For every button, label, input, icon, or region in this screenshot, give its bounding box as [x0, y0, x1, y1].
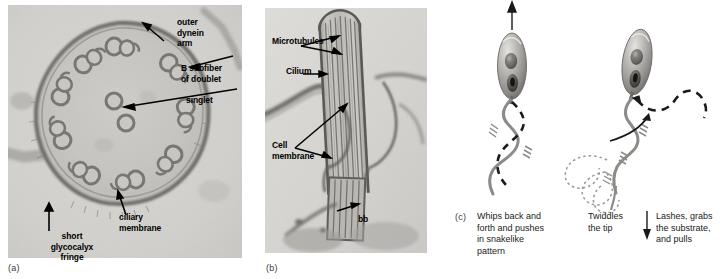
panel-letter-a: (a): [8, 263, 20, 273]
panel-letter-b: (b): [266, 263, 278, 273]
label-cilium: Cilium: [286, 66, 311, 77]
lashing-path-dashed: [637, 91, 706, 118]
label-short-glycocalyx-fringe: short glycocalyx fringe: [51, 231, 93, 263]
label-outer-dynein-arm: outer dynein arm: [177, 17, 204, 49]
label-microtubules: Microtubules: [272, 36, 324, 47]
label-b-subfiber-of-doublet: B subfiber of doublet: [181, 63, 222, 84]
flagellum-dashed-left: [497, 102, 523, 186]
caption-lashes: Lashes, grabs the substrate, and pulls: [656, 211, 723, 246]
panel-c-diagram: [455, 0, 723, 215]
twiddle-loops-dotted: [565, 156, 619, 213]
flagellum-solid-right: [614, 98, 638, 193]
tip-twiddle-arrow: [637, 211, 657, 241]
panel-letter-c: (c): [455, 212, 466, 222]
label-singlet: singlet: [186, 95, 213, 106]
label-basal-body: bb: [358, 214, 368, 225]
sperm-left: [489, 2, 532, 194]
figure-cilia-flagella: outer dynein arm B subfiber of doublet s…: [0, 0, 723, 279]
caption-whips: Whips back and forth and pushes in snake…: [477, 211, 577, 257]
label-ciliary-membrane: ciliary membrane: [119, 212, 161, 233]
label-cell-membrane: Cell membrane: [272, 140, 314, 161]
sperm-right: [565, 27, 706, 212]
